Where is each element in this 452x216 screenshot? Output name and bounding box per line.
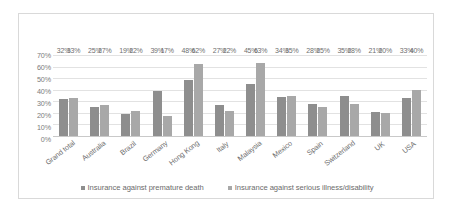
bar-column: 27%: [215, 55, 224, 136]
plot-area: 32%33%25%27%19%22%39%17%48%62%27%22%45%6…: [53, 55, 427, 136]
bar[interactable]: 25%: [90, 107, 99, 136]
bar-group: 32%33%: [53, 55, 84, 136]
bar-column: 34%: [277, 55, 286, 136]
bar[interactable]: 22%: [131, 111, 140, 136]
bar-column: 33%: [402, 55, 411, 136]
bar-group: 45%63%: [240, 55, 271, 136]
bar-group: 33%40%: [396, 55, 427, 136]
legend-label: Insurance against premature death: [88, 183, 204, 192]
x-axis-tick: Brazil: [115, 138, 146, 188]
bar-group: 34%35%: [271, 55, 302, 136]
x-axis-labels: Grand totalAustraliaBrazilGermanyHong Ko…: [53, 138, 427, 188]
x-axis-tick: Grand total: [53, 138, 84, 188]
bar-data-label: 25%: [316, 47, 329, 55]
bar[interactable]: 48%: [184, 80, 193, 136]
bar-data-label: 63%: [254, 47, 267, 55]
bar-data-label: 35%: [285, 47, 298, 55]
bar-group: 19%22%: [115, 55, 146, 136]
bar[interactable]: 17%: [163, 116, 172, 136]
bar-group: 21%20%: [365, 55, 396, 136]
bar-column: 17%: [163, 55, 172, 136]
y-axis-tick: 50%: [23, 76, 51, 84]
bar-data-label: 20%: [379, 47, 392, 55]
x-axis-tick: UK: [365, 138, 396, 188]
bar-groups: 32%33%25%27%19%22%39%17%48%62%27%22%45%6…: [53, 55, 427, 136]
bar-column: 27%: [100, 55, 109, 136]
y-axis-tick: 70%: [23, 52, 51, 60]
x-axis-tick-label: UK: [373, 140, 386, 153]
bar[interactable]: 63%: [256, 63, 265, 136]
bar-column: 25%: [90, 55, 99, 136]
bar[interactable]: 28%: [308, 104, 317, 136]
y-axis-tick: 20%: [23, 112, 51, 120]
bar[interactable]: 33%: [402, 98, 411, 136]
bar[interactable]: 34%: [277, 97, 286, 136]
bar[interactable]: 22%: [225, 111, 234, 136]
bar-column: 45%: [246, 55, 255, 136]
bar-data-label: 22%: [129, 47, 142, 55]
bar-column: 21%: [371, 55, 380, 136]
gridline: [53, 136, 427, 137]
bar[interactable]: 32%: [59, 99, 68, 136]
bar-column: 22%: [225, 55, 234, 136]
y-axis-tick: 40%: [23, 88, 51, 96]
bar-group: 27%22%: [209, 55, 240, 136]
bar[interactable]: 21%: [371, 112, 380, 136]
bar-column: 22%: [131, 55, 140, 136]
legend-label: Insurance against serious illness/disabi…: [235, 183, 374, 192]
legend-item[interactable]: Insurance against serious illness/disabi…: [228, 183, 374, 192]
bar-column: 48%: [184, 55, 193, 136]
bar-column: 62%: [194, 55, 203, 136]
chart-card: 70%60%50%40%30%20%10%0% 32%33%25%27%19%2…: [18, 13, 434, 199]
x-axis-tick: Australia: [84, 138, 115, 188]
x-axis-tick-label: Mexico: [270, 139, 293, 160]
bar[interactable]: 28%: [350, 104, 359, 136]
x-axis-tick: Italy: [209, 138, 240, 188]
bar-column: 39%: [153, 55, 162, 136]
bar[interactable]: 25%: [318, 107, 327, 136]
bar[interactable]: 39%: [153, 91, 162, 136]
bar[interactable]: 45%: [246, 84, 255, 136]
x-axis-tick: Switzerland: [334, 138, 365, 188]
bar[interactable]: 20%: [381, 113, 390, 136]
bar[interactable]: 40%: [412, 90, 421, 136]
bar-data-label: 17%: [160, 47, 173, 55]
bar[interactable]: 19%: [121, 114, 130, 136]
x-axis-tick-label: Malaysia: [235, 139, 263, 163]
bar-column: 35%: [287, 55, 296, 136]
bar-column: 28%: [308, 55, 317, 136]
bar[interactable]: 27%: [100, 105, 109, 136]
bar-column: 28%: [350, 55, 359, 136]
bar[interactable]: 35%: [287, 96, 296, 137]
bar[interactable]: 35%: [340, 96, 349, 137]
bar-column: 20%: [381, 55, 390, 136]
bar-group: 35%28%: [334, 55, 365, 136]
bar-column: 63%: [256, 55, 265, 136]
bar-group: 28%25%: [302, 55, 333, 136]
bar-column: 40%: [412, 55, 421, 136]
legend-item[interactable]: Insurance against premature death: [81, 183, 204, 192]
bar-data-label: 28%: [347, 47, 360, 55]
y-axis: 70%60%50%40%30%20%10%0%: [23, 52, 51, 136]
bar-data-label: 22%: [223, 47, 236, 55]
chart-legend: Insurance against premature deathInsuran…: [19, 183, 435, 192]
bar-group: 48%62%: [178, 55, 209, 136]
bar-data-label: 40%: [410, 47, 423, 55]
x-axis-tick-label: Australia: [80, 139, 107, 163]
bar-column: 25%: [318, 55, 327, 136]
bar-column: 35%: [340, 55, 349, 136]
x-axis-tick: USA: [396, 138, 427, 188]
bar-group: 39%17%: [147, 55, 178, 136]
y-axis-tick: 60%: [23, 64, 51, 72]
bar[interactable]: 33%: [69, 98, 78, 136]
bar-data-label: 62%: [192, 47, 205, 55]
legend-swatch-icon: [228, 186, 232, 190]
y-axis-tick: 0%: [23, 136, 51, 144]
bar[interactable]: 27%: [215, 105, 224, 136]
bar[interactable]: 62%: [194, 64, 203, 136]
x-axis-tick-label: Spain: [305, 139, 325, 157]
bar-data-label: 27%: [98, 47, 111, 55]
x-axis-tick-label: USA: [401, 139, 418, 155]
x-axis-tick: Hong Kong: [178, 138, 209, 188]
legend-swatch-icon: [81, 186, 85, 190]
